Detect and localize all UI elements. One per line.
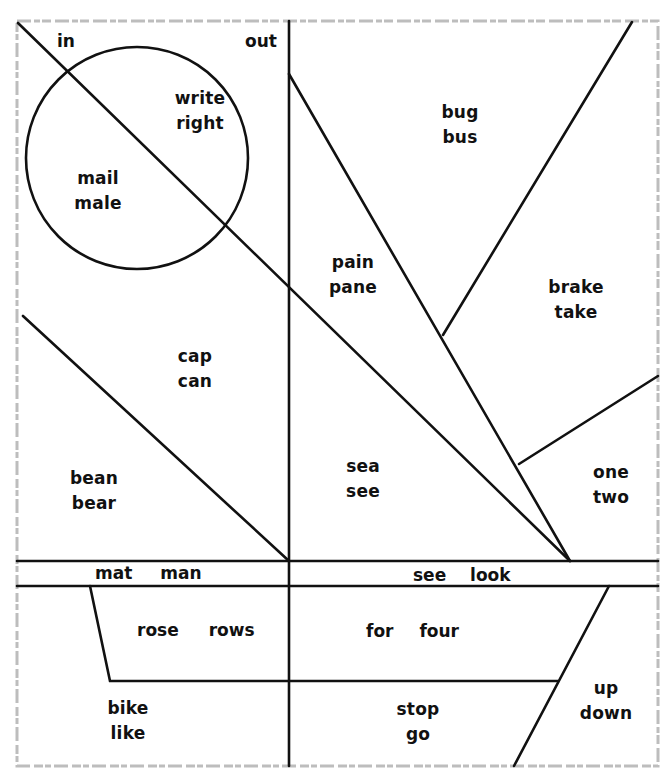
word-two: two xyxy=(593,485,629,510)
region-cap-can[interactable]: cap can xyxy=(178,344,212,394)
word-brake: brake xyxy=(548,275,603,300)
word-like: like xyxy=(107,721,148,746)
word-mat: mat xyxy=(95,563,132,583)
word-pain: pain xyxy=(329,250,377,275)
word-look: look xyxy=(470,565,511,585)
word-pane: pane xyxy=(329,275,377,300)
word-take: take xyxy=(548,300,603,325)
word-mail: mail xyxy=(74,166,121,191)
region-brake-take[interactable]: brake take xyxy=(548,275,603,325)
word-bike: bike xyxy=(107,696,148,721)
word-go: go xyxy=(397,722,440,747)
right-edge-diagonal-line xyxy=(519,376,658,464)
word-stop: stop xyxy=(397,697,440,722)
left-diagonal-line xyxy=(23,316,289,561)
word-rows: rows xyxy=(209,620,255,640)
word-out: out xyxy=(245,31,277,51)
puzzle-line-drawing xyxy=(0,0,669,780)
word-bean: bean xyxy=(70,466,118,491)
word-sea: sea xyxy=(346,454,380,479)
region-pain-pane[interactable]: pain pane xyxy=(329,250,377,300)
word-four: four xyxy=(419,621,459,641)
region-out[interactable]: out xyxy=(245,31,277,51)
word-can: can xyxy=(178,369,212,394)
word-in: in xyxy=(57,31,75,51)
word-rose: rose xyxy=(137,620,179,640)
word-right: right xyxy=(175,111,226,136)
region-bean-bear[interactable]: bean bear xyxy=(70,466,118,516)
worksheet-frame xyxy=(17,21,658,766)
word-one: one xyxy=(593,460,629,485)
word-male: male xyxy=(74,191,121,216)
homophone-puzzle-worksheet: in out write right mail male bug bus pai… xyxy=(0,0,669,780)
word-up: up xyxy=(580,676,632,701)
region-rose-rows[interactable]: rose rows xyxy=(137,620,255,640)
region-stop-go[interactable]: stop go xyxy=(397,697,440,747)
word-see-homophone: see xyxy=(346,479,380,504)
region-bug-bus[interactable]: bug bus xyxy=(441,100,478,150)
word-bug: bug xyxy=(441,100,478,125)
region-mail-male[interactable]: mail male xyxy=(74,166,121,216)
region-up-down[interactable]: up down xyxy=(580,676,632,726)
word-down: down xyxy=(580,701,632,726)
region-mat-man[interactable]: mat man xyxy=(95,563,202,583)
word-man: man xyxy=(160,563,201,583)
region-one-two[interactable]: one two xyxy=(593,460,629,510)
region-for-four[interactable]: for four xyxy=(366,621,459,641)
region-write-right[interactable]: write right xyxy=(175,86,226,136)
region-in[interactable]: in xyxy=(57,31,75,51)
word-see: see xyxy=(413,565,446,585)
steep-diagonal-line xyxy=(289,74,570,561)
region-sea-see[interactable]: sea see xyxy=(346,454,380,504)
word-for: for xyxy=(366,621,393,641)
word-cap: cap xyxy=(178,344,212,369)
region-bike-like[interactable]: bike like xyxy=(107,696,148,746)
word-bus: bus xyxy=(441,125,478,150)
word-write: write xyxy=(175,86,226,111)
word-bear: bear xyxy=(70,491,118,516)
region-see-look[interactable]: see look xyxy=(413,565,511,585)
circle-shape xyxy=(26,47,248,269)
